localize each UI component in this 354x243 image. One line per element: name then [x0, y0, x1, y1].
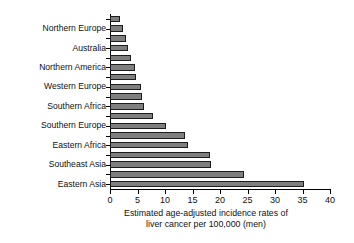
y-axis-tick — [106, 87, 110, 88]
y-axis-tick — [106, 58, 110, 59]
x-axis-tick-label: 20 — [215, 195, 225, 205]
x-axis-tick-label: 25 — [242, 195, 252, 205]
bar-fill — [110, 123, 166, 129]
bar-fill — [110, 132, 185, 138]
x-axis-tick-label: 5 — [135, 195, 140, 205]
y-axis-tick-label: Northern America — [39, 63, 106, 72]
y-axis-tick — [106, 97, 110, 98]
y-axis-tick — [106, 136, 110, 137]
bar-fill — [110, 93, 142, 99]
bar-fill — [110, 55, 131, 61]
y-axis-labels: Northern EuropeAustraliaNorthern America… — [0, 14, 106, 189]
bar — [110, 152, 330, 158]
bar-fill — [110, 171, 244, 177]
x-axis-tick-label: 0 — [107, 195, 112, 205]
bar — [110, 16, 330, 22]
bar — [110, 35, 330, 41]
bar-fill — [110, 103, 144, 109]
y-axis-tick — [106, 67, 110, 68]
bar-fill — [110, 35, 126, 41]
bar — [110, 161, 330, 167]
x-axis-tick — [303, 190, 304, 194]
bar-fill — [110, 84, 141, 90]
bar — [110, 93, 330, 99]
x-axis-tick-label: 15 — [187, 195, 197, 205]
plot-area — [110, 14, 330, 189]
x-axis-tick-label: 35 — [297, 195, 307, 205]
y-axis-tick — [106, 48, 110, 49]
y-axis-tick-label: Australia — [73, 44, 106, 53]
x-axis-tick-label: 30 — [270, 195, 280, 205]
bar — [110, 25, 330, 31]
x-axis-ticks: 0510152025303540 — [110, 190, 331, 206]
bar-fill — [110, 45, 128, 51]
bar — [110, 142, 330, 148]
x-axis-tick — [220, 190, 221, 194]
x-axis-title-line: liver cancer per 100,000 (men) — [66, 219, 346, 230]
bar — [110, 55, 330, 61]
x-axis-tick — [275, 190, 276, 194]
bar-fill — [110, 74, 136, 80]
y-axis-tick — [106, 116, 110, 117]
x-axis-tick-label: 10 — [160, 195, 170, 205]
y-axis-tick-label: Southeast Asia — [49, 160, 106, 169]
y-axis-tick-label: Southern Europe — [41, 121, 106, 130]
x-axis-tick — [330, 190, 331, 194]
bar — [110, 45, 330, 51]
bar — [110, 84, 330, 90]
y-axis-tick — [106, 77, 110, 78]
y-axis-tick — [106, 174, 110, 175]
x-axis-title: Estimated age-adjusted incidence rates o… — [66, 208, 346, 230]
bar-chart: Northern EuropeAustraliaNorthern America… — [0, 0, 354, 243]
x-axis-tick-label: 40 — [325, 195, 335, 205]
bar — [110, 103, 330, 109]
bar-fill — [110, 25, 123, 31]
bar — [110, 64, 330, 70]
y-axis-tick — [106, 19, 110, 20]
x-axis-tick — [248, 190, 249, 194]
x-axis-title-line: Estimated age-adjusted incidence rates o… — [66, 208, 346, 219]
x-axis-tick — [110, 190, 111, 194]
bar — [110, 171, 330, 177]
bar-fill — [110, 161, 211, 167]
y-axis-tick — [106, 145, 110, 146]
y-axis-tick — [106, 106, 110, 107]
y-axis-tick — [106, 165, 110, 166]
bar-fill — [110, 113, 153, 119]
y-axis-tick-label: Western Europe — [44, 82, 106, 91]
bar — [110, 181, 330, 187]
y-axis-tick — [106, 38, 110, 39]
bar — [110, 113, 330, 119]
x-axis-tick — [165, 190, 166, 194]
bar-fill — [110, 152, 210, 158]
bar-fill — [110, 142, 188, 148]
bar-series — [110, 14, 330, 189]
x-axis-tick — [138, 190, 139, 194]
y-axis-tick-label: Eastern Asia — [58, 180, 106, 189]
y-axis-tick — [106, 126, 110, 127]
bar — [110, 74, 330, 80]
bar — [110, 123, 330, 129]
bar-fill — [110, 16, 120, 22]
bar-fill — [110, 64, 135, 70]
bar-fill — [110, 181, 304, 187]
y-axis-tick — [106, 29, 110, 30]
y-axis-tick-label: Northern Europe — [42, 24, 106, 33]
y-axis-tick-label: Southern Africa — [47, 102, 106, 111]
x-axis-tick — [193, 190, 194, 194]
y-axis-tick — [106, 155, 110, 156]
bar — [110, 132, 330, 138]
y-axis-tick — [106, 184, 110, 185]
y-axis-tick-label: Eastern Africa — [53, 141, 107, 150]
